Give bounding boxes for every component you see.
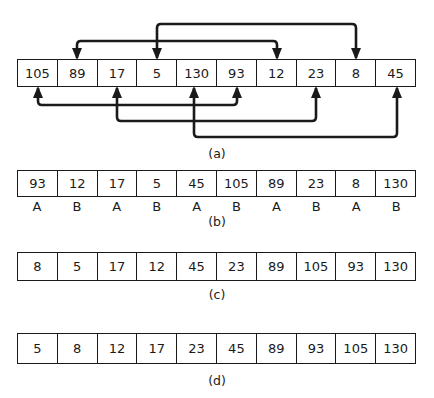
array-cell: 93 — [297, 334, 337, 363]
array-cell: 89 — [257, 253, 297, 280]
array-cell: 17 — [98, 171, 138, 196]
array-cell: 93 — [217, 60, 257, 86]
partition-tag: B — [296, 199, 336, 214]
partition-tags-b: A B A B A B A B A B — [17, 199, 416, 214]
array-cell: 8 — [18, 253, 58, 280]
partition-tag: B — [376, 199, 416, 214]
partition-tag: B — [57, 199, 97, 214]
array-cell: 105 — [336, 334, 376, 363]
caption-a: (a) — [0, 146, 434, 161]
caption-d: (d) — [0, 373, 434, 388]
array-cell: 8 — [336, 60, 376, 86]
array-cell: 23 — [297, 171, 337, 196]
array-cell: 93 — [18, 171, 58, 196]
array-cell: 23 — [177, 334, 217, 363]
array-cell: 5 — [137, 60, 177, 86]
array-cell: 105 — [217, 171, 257, 196]
array-cell: 45 — [217, 334, 257, 363]
array-cell: 45 — [177, 171, 217, 196]
array-row-a: 105 89 17 5 130 93 12 23 8 45 — [17, 59, 416, 87]
caption-b: (b) — [0, 214, 434, 229]
array-cell: 89 — [257, 171, 297, 196]
array-row-d: 5 8 12 17 23 45 89 93 105 130 — [17, 333, 416, 364]
array-cell: 8 — [336, 171, 376, 196]
array-cell: 5 — [58, 253, 98, 280]
array-cell: 5 — [18, 334, 58, 363]
array-cell: 130 — [177, 60, 217, 86]
array-cell: 5 — [137, 171, 177, 196]
array-cell: 17 — [137, 334, 177, 363]
array-cell: 8 — [58, 334, 98, 363]
swap-arrow-130-45 — [194, 88, 397, 137]
array-cell: 93 — [336, 253, 376, 280]
partition-tag: A — [97, 199, 137, 214]
partition-tag: A — [17, 199, 57, 214]
array-cell: 23 — [297, 60, 337, 86]
array-cell: 89 — [257, 334, 297, 363]
array-cell: 17 — [98, 253, 138, 280]
partition-tag: A — [256, 199, 296, 214]
array-cell: 12 — [98, 334, 138, 363]
array-cell: 130 — [376, 253, 415, 280]
array-row-c: 8 5 17 12 45 23 89 105 93 130 — [17, 252, 416, 281]
partition-tag: A — [177, 199, 217, 214]
array-cell: 89 — [58, 60, 98, 86]
caption-c: (c) — [0, 287, 434, 302]
array-cell: 45 — [376, 60, 415, 86]
swap-arrow-89-12 — [77, 41, 277, 58]
array-cell: 105 — [297, 253, 337, 280]
array-cell: 17 — [98, 60, 138, 86]
array-row-b: 93 12 17 5 45 105 89 23 8 130 — [17, 170, 416, 197]
array-cell: 105 — [18, 60, 58, 86]
swap-arrow-105-93 — [38, 88, 237, 105]
array-cell: 12 — [58, 171, 98, 196]
partition-tag: A — [336, 199, 376, 214]
array-cell: 130 — [376, 334, 415, 363]
array-cell: 130 — [376, 171, 415, 196]
partition-tag: B — [217, 199, 257, 214]
array-cell: 23 — [217, 253, 257, 280]
array-cell: 45 — [177, 253, 217, 280]
partition-tag: B — [137, 199, 177, 214]
array-cell: 12 — [257, 60, 297, 86]
array-cell: 12 — [137, 253, 177, 280]
